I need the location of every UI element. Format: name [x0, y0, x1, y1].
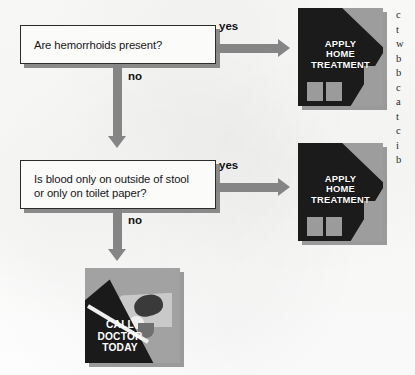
house-window-icon: [325, 216, 343, 237]
house-door-icon: [364, 201, 379, 241]
caption-line-3: TODAY: [102, 342, 138, 353]
caption-line-2: HOME: [326, 48, 355, 59]
margin-text-line: b: [396, 52, 415, 67]
caption-line-3: TREATMENT: [311, 194, 370, 205]
edge-label-no-1: no: [128, 70, 142, 82]
arrow-head: [278, 178, 290, 196]
decision-box-hemorrhoids-text: Are hemorrhoids present?: [34, 38, 207, 52]
margin-text-line: a: [396, 95, 415, 110]
margin-text-line: c: [396, 124, 415, 139]
arrow-shaft: [113, 209, 122, 249]
margin-text-line: i: [396, 139, 415, 154]
arrow-shaft: [216, 183, 278, 192]
decision-box-hemorrhoids[interactable]: Are hemorrhoids present?: [20, 25, 216, 64]
outcome-caption-3: CALL DOCTOR TODAY: [91, 319, 149, 354]
caption-line-1: APPLY: [325, 173, 356, 184]
edge-label-yes-1: yes: [219, 20, 238, 32]
outcome-call-doctor-today[interactable]: CALL DOCTOR TODAY: [85, 268, 180, 363]
decision-box-blood-location-text: Is blood only on outside of stool or onl…: [34, 172, 207, 200]
caption-line-3: TREATMENT: [311, 59, 370, 70]
margin-text-line: t: [396, 110, 415, 125]
margin-body-text-column: ctwbbcatcib: [396, 8, 415, 168]
margin-text-line: b: [396, 66, 415, 81]
arrow-shaft: [216, 44, 278, 53]
margin-text-line: w: [396, 37, 415, 52]
decision-box-blood-location[interactable]: Is blood only on outside of stool or onl…: [20, 160, 216, 209]
arrow-head: [108, 249, 126, 261]
outcome-apply-home-treatment-2[interactable]: APPLY HOME TREATMENT: [298, 143, 383, 241]
arrow-head: [108, 136, 126, 148]
margin-text-line: b: [396, 153, 415, 168]
edge-label-no-2: no: [128, 214, 142, 226]
margin-text-line: c: [396, 8, 415, 23]
margin-text-line: c: [396, 81, 415, 96]
arrow-shaft: [113, 64, 122, 136]
outcome-apply-home-treatment-1[interactable]: APPLY HOME TREATMENT: [298, 8, 383, 106]
caption-line-2: HOME: [326, 183, 355, 194]
house-window-icon: [306, 81, 324, 102]
house-window-icon: [325, 81, 343, 102]
caption-line-1: APPLY: [325, 38, 356, 49]
arrow-head: [278, 39, 290, 57]
edge-label-yes-2: yes: [219, 159, 238, 171]
decision-line-1: Is blood only on outside of stool: [34, 173, 189, 185]
outcome-caption-2: APPLY HOME TREATMENT: [298, 174, 383, 205]
caption-line-2: DOCTOR: [97, 331, 142, 342]
house-window-icon: [306, 216, 324, 237]
caption-line-1: CALL: [106, 319, 134, 330]
house-door-icon: [364, 66, 379, 106]
outcome-caption-1: APPLY HOME TREATMENT: [298, 39, 383, 70]
decision-line-2: or only on toilet paper?: [34, 187, 147, 199]
flowchart-canvas: Are hemorrhoids present? yes no Is blood…: [0, 0, 415, 375]
margin-text-line: t: [396, 23, 415, 38]
